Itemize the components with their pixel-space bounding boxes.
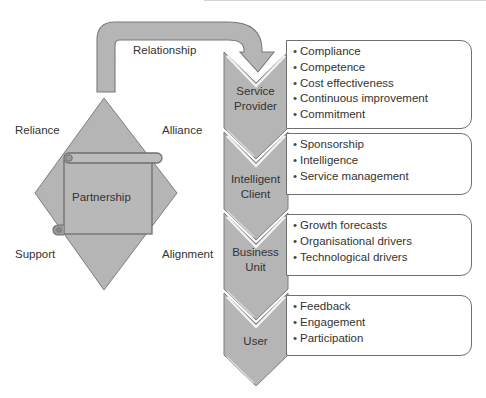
bullet-item: Continuous improvement bbox=[293, 91, 471, 107]
label-alignment: Alignment bbox=[162, 249, 213, 261]
bullet-item: Sponsorship bbox=[293, 137, 471, 153]
bullet-list: Compliance Competence Cost effectiveness… bbox=[287, 41, 471, 123]
level-box-service-provider: Compliance Competence Cost effectiveness… bbox=[286, 40, 472, 129]
bullet-item: Engagement bbox=[293, 315, 471, 331]
bullet-item: Organisational drivers bbox=[293, 234, 471, 250]
label-support: Support bbox=[15, 249, 55, 261]
bullet-item: Intelligence bbox=[293, 153, 471, 169]
level-label-line2: Provider bbox=[224, 99, 287, 114]
label-alliance: Alliance bbox=[162, 125, 202, 137]
level-label-service-provider: Service Provider bbox=[224, 84, 287, 114]
bullet-list: Growth forecasts Organisational drivers … bbox=[287, 215, 471, 265]
bullet-item: Growth forecasts bbox=[293, 218, 471, 234]
relationship-label: Relationship bbox=[133, 45, 196, 57]
bullet-item: Service management bbox=[293, 169, 471, 185]
bullet-list: Feedback Engagement Participation bbox=[287, 296, 471, 346]
bullet-list: Sponsorship Intelligence Service managem… bbox=[287, 134, 471, 184]
bullet-item: Participation bbox=[293, 331, 471, 347]
level-box-intelligent-client: Sponsorship Intelligence Service managem… bbox=[286, 133, 472, 195]
level-box-user: Feedback Engagement Participation bbox=[286, 295, 472, 356]
bullet-item: Cost effectiveness bbox=[293, 76, 471, 92]
bullet-item: Commitment bbox=[293, 107, 471, 123]
level-label-line2: Client bbox=[224, 187, 287, 202]
label-reliance: Reliance bbox=[15, 125, 60, 137]
partnership-label: Partnership bbox=[72, 192, 131, 204]
level-label-user: User bbox=[224, 334, 287, 349]
level-label-business-unit: Business Unit bbox=[224, 245, 287, 275]
bullet-item: Technological drivers bbox=[293, 250, 471, 266]
bullet-item: Competence bbox=[293, 60, 471, 76]
level-label-line1: Business bbox=[224, 245, 287, 260]
level-label-line1: User bbox=[224, 334, 287, 349]
level-box-business-unit: Growth forecasts Organisational drivers … bbox=[286, 214, 472, 276]
level-label-line1: Service bbox=[224, 84, 287, 99]
bullet-item: Compliance bbox=[293, 44, 471, 60]
bullet-item: Feedback bbox=[293, 299, 471, 315]
level-label-line1: Intelligent bbox=[224, 172, 287, 187]
level-label-intelligent-client: Intelligent Client bbox=[224, 172, 287, 202]
level-label-line2: Unit bbox=[224, 260, 287, 275]
